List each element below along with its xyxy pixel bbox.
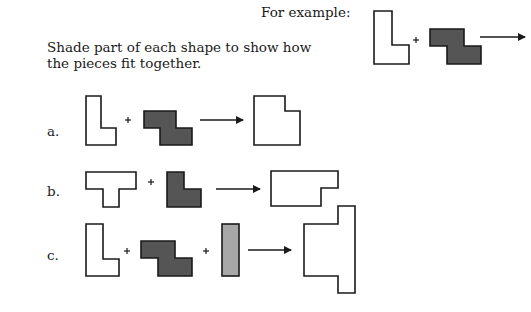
c-bar-piece [222, 224, 239, 276]
example-l-piece [374, 11, 409, 64]
problem-b-group [86, 171, 338, 207]
puzzle-figures [0, 0, 531, 312]
c-plus-icon-1 [124, 248, 130, 254]
c-z-piece [141, 241, 192, 276]
problem-c-group [86, 206, 355, 293]
a-l-piece [86, 96, 116, 145]
c-l-piece [86, 224, 119, 276]
b-l-piece [167, 172, 201, 207]
example-plus-icon [413, 37, 419, 43]
a-plus-icon [125, 117, 131, 123]
c-result-shape[interactable] [304, 206, 355, 293]
example-group [374, 11, 525, 64]
a-z-piece [144, 111, 192, 145]
b-result-shape[interactable] [271, 171, 338, 206]
example-z-piece [430, 29, 481, 64]
b-t-piece [86, 172, 136, 207]
a-result-shape[interactable] [254, 96, 300, 145]
problem-a-group [86, 96, 300, 145]
b-plus-icon [148, 179, 154, 185]
c-plus-icon-2 [203, 248, 209, 254]
